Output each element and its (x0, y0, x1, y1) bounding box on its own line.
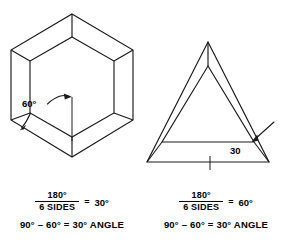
triangle-formula-equals: = (228, 195, 233, 207)
triangle-formula-result: 60° (238, 195, 252, 208)
triangle-angle-label: 30 (230, 145, 241, 156)
hexagon-bevel-edge-lower-right (114, 113, 133, 120)
formula-block: 180° 6 SIDES = 30° 90° – 60° = 30° ANGLE… (0, 186, 288, 245)
hexagon-angle-label: 60° (22, 98, 37, 109)
hexagon-bevel-edge-upper-right (114, 50, 133, 61)
triangle-bevel-edge-bottom-left (147, 142, 162, 162)
hexagon-formula-denominator: 6 SIDES (35, 202, 79, 212)
hexagon-leader-arrowhead-upper (64, 93, 72, 99)
hexagon-bevel-edge-upper-left (11, 50, 30, 61)
triangle-formula-second-line: 90° – 60° = 30° ANGLE (144, 219, 288, 230)
triangle-formula-denominator: 6 SIDES (179, 202, 223, 212)
hexagon-formula-result: 30° (94, 195, 108, 208)
triangle-formula: 180° 6 SIDES = 60° 90° – 60° = 30° ANGLE (144, 186, 288, 245)
hexagon-formula-fraction: 180° 6 SIDES (35, 191, 79, 212)
hexagon-formula-fraction-row: 180° 6 SIDES = 30° (0, 186, 144, 216)
triangle-svg: 30 (144, 30, 288, 188)
hexagon-svg: 60° (0, 0, 148, 188)
inner-triangle-shape (162, 66, 254, 142)
drawing-sheet: 60° 30 180° (0, 0, 288, 245)
hexagon-formula: 180° 6 SIDES = 30° 90° – 60° = 30° ANGLE (0, 186, 144, 245)
triangle-bevel-edge-bottom-right (254, 142, 269, 162)
triangle-formula-numerator: 180° (187, 191, 214, 201)
triangle-formula-fraction-row: 180° 6 SIDES = 60° (144, 186, 288, 216)
hexagon-formula-second-line: 90° – 60° = 30° ANGLE (0, 219, 144, 230)
hexagon-figure: 60° (0, 0, 148, 188)
triangle-formula-fraction: 180° 6 SIDES (179, 191, 223, 212)
triangle-figure: 30 (144, 30, 288, 188)
hexagon-formula-numerator: 180° (43, 191, 70, 201)
hexagon-formula-equals: = (84, 195, 89, 207)
